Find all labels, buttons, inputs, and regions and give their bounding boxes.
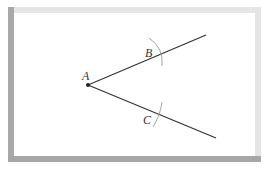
label-a: A	[81, 69, 90, 83]
ray-ab	[88, 35, 206, 85]
label-c: C	[143, 113, 152, 127]
angle-construction-diagram: A B C	[0, 0, 269, 169]
label-b: B	[145, 46, 153, 60]
vertex-point-a	[86, 83, 90, 87]
ray-ac	[88, 85, 216, 138]
